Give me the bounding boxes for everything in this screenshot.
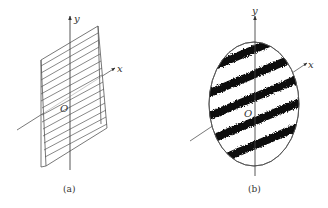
figure: y x O (a) y x O (b)	[0, 0, 328, 208]
y-label-a: y	[73, 13, 80, 24]
caption-a: (a)	[63, 184, 75, 194]
y-label-b: y	[251, 5, 258, 16]
panel-a: y x O (a)	[17, 13, 123, 194]
caption-b: (b)	[248, 184, 261, 194]
x-label-a: x	[117, 63, 123, 74]
panel-b: y x O (b)	[190, 5, 314, 194]
origin-label-a: O	[60, 103, 68, 114]
x-label-b: x	[308, 59, 314, 70]
origin-label-b: O	[244, 108, 252, 119]
